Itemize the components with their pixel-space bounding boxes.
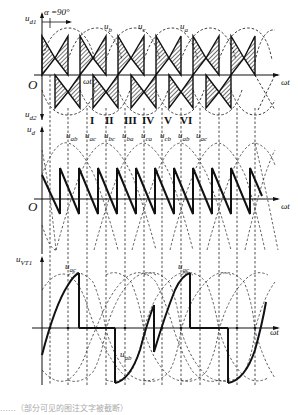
ua-label: ua (180, 22, 188, 34)
origin-top: O (28, 78, 37, 91)
lv-label: ubc (104, 131, 115, 143)
top-hatched-upper (42, 36, 255, 75)
wt-mid-label: ωt (281, 202, 290, 211)
lv6-sub: ab (183, 135, 190, 143)
interval-II: II (105, 115, 114, 126)
ud1-label: ud1 (25, 14, 37, 26)
ud1-sub: d1 (30, 18, 37, 26)
wt-top-label: ωt (281, 78, 290, 87)
mid-x-arrow-icon (273, 197, 280, 201)
bot-uac1-label: uac (65, 262, 76, 274)
top-hatched-lower (55, 75, 231, 108)
uvt1-label: uVT1 (16, 255, 32, 267)
lv2-sub: bc (109, 135, 116, 143)
lv5-sub: cb (165, 135, 172, 143)
lv4-sub: ca (146, 135, 153, 143)
wt-bot-label: ωt (270, 328, 279, 337)
bot-uab-sub: ab (125, 354, 132, 362)
wt1-sub: 1 (92, 81, 96, 89)
uc-label: uc (138, 22, 146, 34)
ub-sub: b (109, 26, 113, 34)
lv-label: uac (196, 131, 207, 143)
uvt-sub: VT1 (21, 259, 33, 267)
uc-sub: c (143, 26, 146, 34)
bot-uac1-sub: ac (70, 266, 77, 274)
ud-sawtooth (42, 168, 262, 214)
bot-uac2-sub: ac (183, 266, 190, 274)
interval-III: III (124, 115, 137, 126)
origin-mid: O (28, 200, 37, 213)
bot-uab-label: uab (120, 350, 132, 362)
lv-label: ucb (160, 131, 171, 143)
interval-IV: IV (142, 115, 154, 126)
alpha-arrow-icon (66, 20, 72, 24)
figure-caption: ……（部分可见的图注文字被截断） (0, 402, 298, 413)
mid-y-arrow-icon (40, 126, 44, 132)
interval-V: V (164, 115, 172, 126)
lv3-sub: ba (127, 135, 134, 143)
wt1-label: ωt1 (83, 77, 95, 89)
ud2-label: ud2 (25, 110, 37, 122)
ud-sub: d (32, 129, 36, 137)
lv7-sub: ac (201, 135, 208, 143)
alpha-label: α =90° (44, 8, 70, 17)
ua-sub: a (185, 26, 189, 34)
top-y-arrow-down-icon (40, 114, 44, 120)
ud-label: ud (27, 125, 35, 137)
lv0-sub: ab (71, 135, 78, 143)
wt1-text: ωt (83, 76, 92, 86)
interval-VI: VI (180, 115, 192, 126)
top-panel (34, 12, 280, 120)
lv-label: uab (178, 131, 190, 143)
lv-label: uab (66, 131, 78, 143)
bottom-panel (32, 256, 280, 385)
bot-uac2-label: uac (178, 262, 189, 274)
lv-label: uac (85, 131, 96, 143)
bot-y-arrow-icon (40, 256, 44, 262)
ub-label: ub (104, 22, 112, 34)
ud2-sub: d2 (30, 114, 37, 122)
middle-panel (34, 126, 280, 254)
lv-label: uca (141, 131, 152, 143)
interval-I: I (90, 115, 94, 126)
lv1-sub: ac (90, 135, 97, 143)
lv-label: uba (122, 131, 134, 143)
